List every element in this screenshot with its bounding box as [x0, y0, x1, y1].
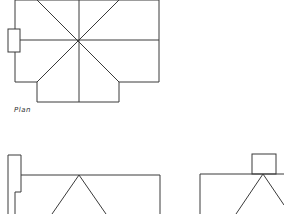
end-elevation-gable	[236, 174, 284, 214]
end-elevation-view	[200, 154, 284, 214]
plan-label: Plan	[14, 106, 31, 114]
side-elevation-gable	[52, 175, 106, 214]
side-elevation-chimney	[8, 155, 21, 214]
end-elevation-outline	[200, 174, 284, 214]
plan-view	[8, 0, 159, 102]
plan-chimney	[8, 29, 20, 52]
drawing-canvas	[0, 0, 284, 214]
side-elevation-view	[8, 155, 160, 214]
plan-outline	[15, 0, 159, 102]
end-elevation-chimney	[252, 154, 276, 174]
